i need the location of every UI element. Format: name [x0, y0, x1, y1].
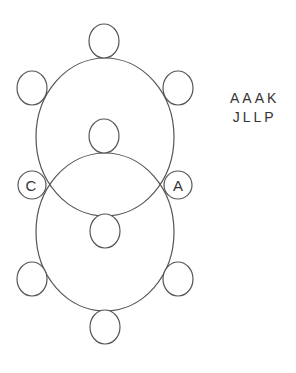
small-circle-top	[89, 24, 119, 58]
label-c: C	[26, 177, 37, 194]
code-line-2: JLLP	[230, 108, 279, 127]
small-circle-lower-left	[17, 262, 47, 296]
seating-diagram: C A	[0, 0, 296, 373]
small-circle-lower-right	[163, 262, 193, 296]
small-circle-inner-top	[89, 119, 119, 153]
code-block: AAAK JLLP	[230, 89, 279, 127]
small-circle-bottom	[90, 310, 120, 344]
small-circle-upper-left	[17, 71, 47, 105]
small-circle-upper-right	[163, 71, 193, 105]
small-circle-inner-bottom	[90, 214, 120, 248]
code-line-1: AAAK	[230, 89, 279, 108]
label-a: A	[173, 177, 183, 194]
